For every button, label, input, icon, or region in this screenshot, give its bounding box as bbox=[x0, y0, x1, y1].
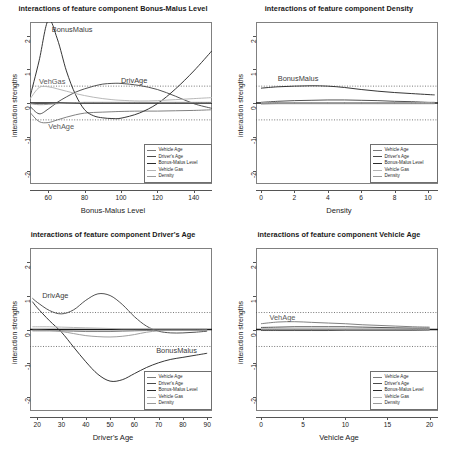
legend-swatch bbox=[147, 170, 156, 171]
y-tick-mark bbox=[27, 296, 30, 297]
legend-item[interactable]: Bonus-Malus Level bbox=[373, 160, 435, 167]
y-tick-label: -1 bbox=[250, 138, 257, 144]
plot-panel-1: interactions of feature component Bonus-… bbox=[0, 0, 226, 226]
legend-label: Bonus-Malus Level bbox=[385, 387, 424, 394]
legend-item[interactable]: Driver's Age bbox=[373, 381, 435, 388]
legend-label: Bonus-Malus Level bbox=[159, 387, 198, 394]
legend-item[interactable]: Density bbox=[373, 400, 435, 407]
x-tick-mark bbox=[85, 190, 86, 193]
legend-label: Vehicle Gas bbox=[385, 167, 410, 174]
y-tick-label: 0 bbox=[24, 106, 31, 110]
legend-item[interactable]: Vehicle Age bbox=[373, 374, 435, 381]
series-line-0 bbox=[30, 110, 212, 123]
legend[interactable]: Vehicle AgeDriver's AgeBonus-Malus Level… bbox=[144, 371, 212, 410]
legend-label: Vehicle Gas bbox=[385, 394, 410, 401]
curve-annotation: VehAge bbox=[269, 313, 295, 322]
legend-swatch bbox=[147, 383, 156, 384]
plot-curves bbox=[226, 0, 452, 226]
legend-item[interactable]: Bonus-Malus Level bbox=[147, 387, 209, 394]
x-tick-mark bbox=[261, 190, 262, 193]
legend-swatch bbox=[147, 403, 156, 404]
x-axis-line bbox=[30, 417, 212, 418]
y-tick-mark bbox=[253, 103, 256, 104]
legend-item[interactable]: Driver's Age bbox=[373, 154, 435, 161]
legend-swatch bbox=[147, 150, 156, 151]
x-tick-mark bbox=[157, 190, 158, 193]
legend[interactable]: Vehicle AgeDriver's AgeBonus-Malus Level… bbox=[370, 371, 438, 410]
x-tick-label: 0 bbox=[251, 194, 271, 201]
x-tick-label: 6 bbox=[351, 194, 371, 201]
legend-swatch bbox=[373, 156, 382, 157]
series-line-0 bbox=[261, 322, 430, 327]
y-tick-label: 0 bbox=[250, 106, 257, 110]
y-tick-label: 0 bbox=[24, 333, 31, 337]
legend-item[interactable]: Density bbox=[373, 173, 435, 180]
y-tick-mark bbox=[27, 36, 30, 37]
legend-item[interactable]: Density bbox=[147, 400, 209, 407]
x-tick-mark bbox=[328, 190, 329, 193]
x-axis-label: Driver's Age bbox=[0, 433, 226, 442]
x-tick-mark bbox=[361, 190, 362, 193]
x-tick-label: 80 bbox=[173, 421, 193, 428]
x-tick-label: 2 bbox=[284, 194, 304, 201]
legend-item[interactable]: Vehicle Age bbox=[373, 147, 435, 154]
legend-item[interactable]: Vehicle Gas bbox=[373, 394, 435, 401]
y-tick-label: 2 bbox=[250, 265, 257, 269]
y-tick-mark bbox=[253, 330, 256, 331]
y-axis-label: interaction strengths bbox=[237, 300, 244, 363]
legend-swatch bbox=[147, 397, 156, 398]
x-tick-mark bbox=[134, 417, 135, 420]
legend-item[interactable]: Vehicle Gas bbox=[147, 167, 209, 174]
x-tick-label: 140 bbox=[184, 194, 204, 201]
legend-item[interactable]: Bonus-Malus Level bbox=[373, 387, 435, 394]
x-axis-label: Vehicle Age bbox=[226, 433, 452, 442]
x-tick-mark bbox=[48, 190, 49, 193]
x-tick-mark bbox=[387, 417, 388, 420]
y-tick-label: -2 bbox=[24, 399, 31, 405]
legend[interactable]: Vehicle AgeDriver's AgeBonus-Malus Level… bbox=[144, 144, 212, 183]
y-tick-mark bbox=[253, 262, 256, 263]
legend-label: Density bbox=[385, 173, 400, 180]
legend-swatch bbox=[373, 403, 382, 404]
x-tick-label: 4 bbox=[318, 194, 338, 201]
legend-swatch bbox=[373, 170, 382, 171]
legend-item[interactable]: Bonus-Malus Level bbox=[147, 160, 209, 167]
x-tick-label: 60 bbox=[124, 421, 144, 428]
legend-label: Vehicle Age bbox=[385, 374, 409, 381]
legend-item[interactable]: Vehicle Gas bbox=[373, 167, 435, 174]
y-tick-label: 1 bbox=[24, 73, 31, 77]
x-tick-label: 40 bbox=[76, 421, 96, 428]
legend-item[interactable]: Driver's Age bbox=[147, 154, 209, 161]
legend-label: Vehicle Age bbox=[385, 147, 409, 154]
legend-label: Density bbox=[159, 400, 174, 407]
x-tick-mark bbox=[303, 417, 304, 420]
y-tick-mark bbox=[27, 330, 30, 331]
y-tick-label: -2 bbox=[250, 172, 257, 178]
x-tick-label: 60 bbox=[38, 194, 58, 201]
x-tick-mark bbox=[430, 417, 431, 420]
x-tick-label: 100 bbox=[111, 194, 131, 201]
y-tick-label: 2 bbox=[250, 39, 257, 43]
legend-item[interactable]: Vehicle Age bbox=[147, 374, 209, 381]
x-tick-mark bbox=[428, 190, 429, 193]
curve-annotation: BonusMalus bbox=[156, 346, 197, 355]
x-tick-mark bbox=[294, 190, 295, 193]
plot-panel-3: interactions of feature component Driver… bbox=[0, 226, 226, 453]
x-tick-mark bbox=[159, 417, 160, 420]
legend-swatch bbox=[373, 176, 382, 177]
legend-swatch bbox=[373, 163, 382, 164]
x-tick-mark bbox=[121, 190, 122, 193]
y-tick-label: -1 bbox=[250, 365, 257, 371]
y-axis-label: interaction strengths bbox=[237, 74, 244, 137]
legend-label: Density bbox=[159, 173, 174, 180]
legend-label: Driver's Age bbox=[385, 381, 410, 388]
legend-item[interactable]: Driver's Age bbox=[147, 381, 209, 388]
legend-item[interactable]: Vehicle Gas bbox=[147, 394, 209, 401]
legend-swatch bbox=[147, 163, 156, 164]
legend-item[interactable]: Vehicle Age bbox=[147, 147, 209, 154]
legend-swatch bbox=[373, 397, 382, 398]
x-tick-mark bbox=[207, 417, 208, 420]
x-tick-label: 30 bbox=[52, 421, 72, 428]
legend[interactable]: Vehicle AgeDriver's AgeBonus-Malus Level… bbox=[370, 144, 438, 183]
legend-item[interactable]: Density bbox=[147, 173, 209, 180]
